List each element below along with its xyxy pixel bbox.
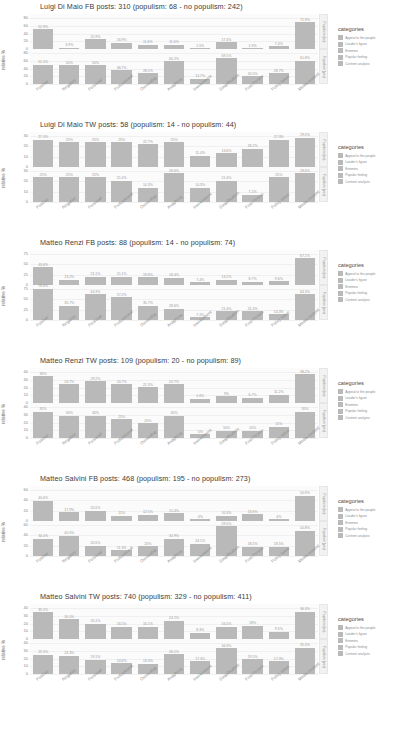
- bar-item[interactable]: 11.6%: [161, 14, 187, 49]
- bar-item[interactable]: 4%: [187, 486, 213, 521]
- bar-item[interactable]: 24.7%: [109, 368, 135, 403]
- bar-item[interactable]: 24.7%: [161, 368, 187, 403]
- bar[interactable]: [295, 496, 315, 521]
- bar[interactable]: [33, 267, 53, 285]
- legend-item[interactable]: Popular feeling: [338, 55, 398, 60]
- bar-item[interactable]: 34.9%: [161, 521, 187, 556]
- bar[interactable]: [138, 144, 158, 167]
- bar[interactable]: [216, 396, 236, 403]
- bar-item[interactable]: 28.6%: [161, 285, 187, 320]
- bar-item[interactable]: 27.3%: [30, 132, 56, 167]
- bar-item[interactable]: 36.3%: [292, 604, 318, 639]
- legend-item[interactable]: Leader's figure: [338, 160, 398, 165]
- bar-item[interactable]: 25%: [30, 167, 56, 202]
- bar-item[interactable]: 64.3%: [82, 285, 108, 320]
- bar-item[interactable]: 15.4%: [161, 486, 187, 521]
- legend-item[interactable]: Enemies: [338, 166, 398, 171]
- legend-item[interactable]: Leader's figure: [338, 632, 398, 637]
- bar-item[interactable]: 26.5%: [56, 604, 82, 639]
- bar-item[interactable]: 29.2%: [82, 368, 108, 403]
- bar-item[interactable]: 40.6%: [30, 486, 56, 521]
- bar[interactable]: [164, 621, 184, 639]
- bar-item[interactable]: 25%: [82, 167, 108, 202]
- bar-item[interactable]: 4%: [266, 486, 292, 521]
- bar[interactable]: [269, 140, 289, 167]
- legend-item[interactable]: Leader's figure: [338, 514, 398, 519]
- legend-item[interactable]: Enemies: [338, 284, 398, 289]
- bar-item[interactable]: 25%: [56, 167, 82, 202]
- bar[interactable]: [216, 627, 236, 639]
- bar-item[interactable]: 8.3%: [187, 604, 213, 639]
- bar-item[interactable]: 30%: [56, 403, 82, 438]
- bar-item[interactable]: 24.7%: [56, 368, 82, 403]
- legend-item[interactable]: Popular feeling: [338, 409, 398, 414]
- bar[interactable]: [85, 624, 105, 639]
- bar-item[interactable]: 28.6%: [161, 167, 187, 202]
- legend-item[interactable]: Enemies: [338, 638, 398, 643]
- bar[interactable]: [295, 22, 315, 49]
- bar-item[interactable]: 38.2%: [292, 368, 318, 403]
- bar[interactable]: [33, 612, 53, 639]
- bar[interactable]: [59, 619, 79, 639]
- bar[interactable]: [295, 138, 315, 168]
- legend-item[interactable]: Popular feeling: [338, 645, 398, 650]
- bar[interactable]: [33, 501, 53, 521]
- bar-item[interactable]: 21.1%: [109, 250, 135, 285]
- bar-item[interactable]: 50.9%: [292, 486, 318, 521]
- bar[interactable]: [33, 376, 53, 403]
- bar-item[interactable]: 29.5%: [292, 132, 318, 167]
- bar[interactable]: [295, 374, 315, 403]
- bar[interactable]: [164, 384, 184, 403]
- bar[interactable]: [138, 627, 158, 639]
- legend-item[interactable]: Leader's figure: [338, 42, 398, 47]
- bar-item[interactable]: 9.6%: [266, 250, 292, 285]
- bar-item[interactable]: 24.1%: [161, 604, 187, 639]
- bar-item[interactable]: 10.3%: [213, 486, 239, 521]
- bar-item[interactable]: 17.4%: [213, 14, 239, 49]
- bar[interactable]: [85, 381, 105, 403]
- bar-item[interactable]: 20.1%: [82, 604, 108, 639]
- legend-item[interactable]: Appeal to the people: [338, 271, 398, 276]
- bar-item[interactable]: 8.7%: [240, 250, 266, 285]
- bar-item[interactable]: 11%: [109, 486, 135, 521]
- bar-item[interactable]: 2.5%: [187, 14, 213, 49]
- bar-item[interactable]: 9%: [213, 368, 239, 403]
- bar-item[interactable]: 67.1%: [292, 250, 318, 285]
- bar-item[interactable]: 21.3%: [135, 368, 161, 403]
- bar-item[interactable]: 18.4%: [161, 250, 187, 285]
- bar[interactable]: [85, 511, 105, 521]
- bar-item[interactable]: 16.1%: [135, 604, 161, 639]
- bar-item[interactable]: 12.5%: [135, 486, 161, 521]
- bar[interactable]: [33, 140, 53, 167]
- bar-item[interactable]: 35%: [30, 403, 56, 438]
- bar[interactable]: [59, 142, 79, 167]
- bar-item[interactable]: 25%: [161, 132, 187, 167]
- bar[interactable]: [242, 514, 262, 521]
- bar[interactable]: [295, 258, 315, 285]
- bar-item[interactable]: 11.2%: [266, 368, 292, 403]
- bar-item[interactable]: 6.7%: [240, 368, 266, 403]
- legend-item[interactable]: Content analysis: [338, 533, 398, 538]
- bar[interactable]: [59, 512, 79, 521]
- bar[interactable]: [111, 627, 131, 639]
- legend-item[interactable]: Enemies: [338, 402, 398, 407]
- bar[interactable]: [164, 278, 184, 285]
- bar-item[interactable]: 34.4%: [30, 521, 56, 556]
- bar-item[interactable]: 11.6%: [135, 14, 161, 49]
- legend-item[interactable]: Enemies: [338, 520, 398, 525]
- bar-item[interactable]: 3.9%: [56, 14, 82, 49]
- bar-item[interactable]: 27.3%: [266, 132, 292, 167]
- bar-item[interactable]: 16.5%: [109, 604, 135, 639]
- legend-item[interactable]: Appeal to the people: [338, 153, 398, 158]
- bar-item[interactable]: 36%: [30, 368, 56, 403]
- legend-item[interactable]: Leader's figure: [338, 396, 398, 401]
- bar-item[interactable]: 43.8%: [30, 250, 56, 285]
- bar-item[interactable]: 78.6%: [30, 285, 56, 320]
- legend-item[interactable]: Content analysis: [338, 61, 398, 66]
- bar-item[interactable]: 19.1%: [82, 639, 108, 674]
- bar[interactable]: [138, 387, 158, 403]
- bar-item[interactable]: 13.2%: [56, 250, 82, 285]
- legend-item[interactable]: Appeal to the people: [338, 389, 398, 394]
- bar-item[interactable]: 20.5%: [82, 486, 108, 521]
- bar-item[interactable]: 50%: [82, 49, 108, 84]
